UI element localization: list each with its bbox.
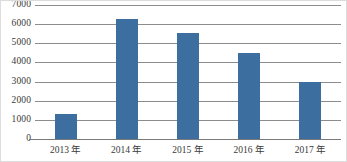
x-axis-tick-label: 2014 年 (92, 143, 162, 157)
x-axis-tick-label: 2013 年 (31, 143, 101, 157)
bar-series (35, 5, 341, 139)
bar (238, 53, 260, 139)
y-axis-tick-label: 0 (1, 134, 31, 144)
y-axis-tick-label: 6000 (1, 19, 31, 29)
x-axis-tick-label: 2017 年 (275, 143, 345, 157)
y-axis-tick-label: 7000 (1, 0, 31, 10)
bar (299, 82, 321, 139)
y-axis-tick-label: 4000 (1, 58, 31, 68)
bar (116, 19, 138, 139)
bar (177, 33, 199, 139)
y-axis-origin-tick (29, 139, 35, 140)
gridline (35, 139, 341, 140)
bar (55, 114, 77, 139)
x-axis-tick-label: 2015 年 (153, 143, 223, 157)
y-axis-tick-label: 3000 (1, 77, 31, 87)
y-axis-tick-label: 5000 (1, 39, 31, 49)
y-axis-tick-labels: 01000200030004000500060007000 (1, 1, 31, 143)
x-axis-tick-label: 2016 年 (214, 143, 284, 157)
y-axis-tick-label: 1000 (1, 115, 31, 125)
plot-area (35, 5, 341, 139)
y-axis-tick-label: 2000 (1, 96, 31, 106)
x-axis-tick-labels: 2013 年2014 年2015 年2016 年2017 年 (35, 143, 341, 159)
bar-chart-figure: 01000200030004000500060007000 2013 年2014… (0, 0, 347, 162)
